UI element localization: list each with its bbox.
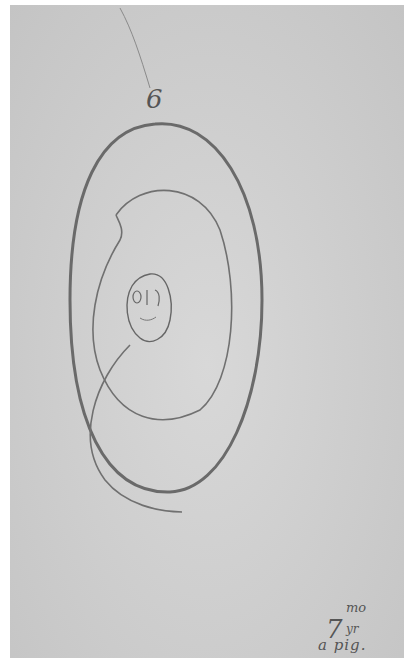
top-number-annotation: 6 [146, 84, 163, 114]
left-eye [133, 291, 141, 303]
inner-spiral [93, 190, 232, 419]
right-eye [155, 290, 159, 306]
mouth [140, 317, 156, 320]
age-subscript: yr [346, 622, 359, 636]
pencil-drawing [0, 0, 416, 664]
outer-oval [70, 124, 262, 492]
face-outline [127, 274, 171, 342]
spiral-tail [90, 345, 182, 512]
stray-line [120, 8, 150, 88]
caption-annotation: a pig. [318, 636, 366, 654]
age-superscript: mo [346, 600, 366, 615]
